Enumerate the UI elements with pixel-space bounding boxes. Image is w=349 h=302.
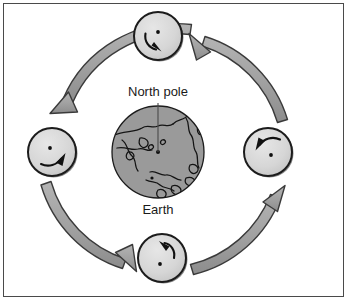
earth-label: Earth bbox=[142, 202, 173, 217]
moon-top-center-dot bbox=[156, 30, 160, 34]
moon-right bbox=[244, 128, 294, 178]
orbit-arrow-bottom-left bbox=[41, 182, 137, 272]
orbit-arrow-bottom-right bbox=[191, 186, 286, 275]
earth-globe bbox=[112, 106, 210, 203]
moon-top bbox=[134, 12, 184, 62]
north-pole-label: North pole bbox=[128, 84, 188, 99]
moon-left bbox=[28, 128, 78, 178]
moon-orbit-diagram: North pole Earth bbox=[0, 0, 349, 302]
moon-bottom bbox=[138, 234, 188, 284]
figure-root: North pole Earth bbox=[0, 0, 349, 302]
moon-left-center-dot bbox=[48, 146, 52, 150]
orbit-arrow-top-right bbox=[189, 34, 288, 123]
earth-marker-secondary bbox=[150, 176, 153, 179]
moon-right-center-dot bbox=[269, 153, 273, 157]
moon-bottom-center-dot bbox=[158, 262, 162, 266]
